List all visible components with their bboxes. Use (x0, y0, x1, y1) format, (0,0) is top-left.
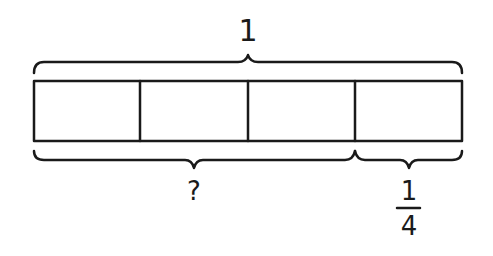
fraction-numerator: 1 (394, 176, 424, 206)
total-label: 1 (233, 14, 263, 48)
top-brace (34, 55, 462, 73)
fraction-brace (355, 151, 462, 168)
unknown-brace (34, 151, 355, 168)
unknown-label: ? (179, 176, 209, 206)
fraction-denominator: 4 (394, 211, 424, 241)
